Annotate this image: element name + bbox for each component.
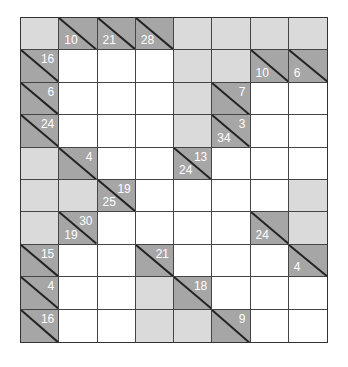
down-clue: 34 <box>217 132 230 144</box>
entry-cell[interactable] <box>289 148 327 180</box>
clue-cell: 3019 <box>59 212 97 244</box>
across-clue: 4 <box>86 151 93 163</box>
entry-cell[interactable] <box>98 115 136 147</box>
clue-cell: 4 <box>59 148 97 180</box>
down-clue: 21 <box>103 34 116 46</box>
down-clue: 10 <box>256 67 269 79</box>
blocked-cell <box>289 212 327 244</box>
clue-cell: 28 <box>136 18 174 50</box>
blocked-cell <box>174 50 212 82</box>
entry-cell[interactable] <box>59 245 97 277</box>
clue-cell: 1925 <box>98 180 136 212</box>
clue-cell: 16 <box>21 50 59 82</box>
clue-cell: 4 <box>289 245 327 277</box>
clue-cell: 18 <box>174 277 212 309</box>
entry-cell[interactable] <box>212 245 250 277</box>
entry-cell[interactable] <box>136 148 174 180</box>
entry-cell[interactable] <box>289 83 327 115</box>
clue-cell: 21 <box>136 245 174 277</box>
across-clue: 13 <box>194 151 207 163</box>
blocked-cell <box>21 180 59 212</box>
entry-cell[interactable] <box>136 83 174 115</box>
clue-cell: 10 <box>59 18 97 50</box>
down-clue: 25 <box>103 196 116 208</box>
clue-cell: 9 <box>212 310 250 342</box>
entry-cell[interactable] <box>98 212 136 244</box>
entry-cell[interactable] <box>98 277 136 309</box>
entry-cell[interactable] <box>212 277 250 309</box>
clue-cell: 1324 <box>174 148 212 180</box>
blocked-cell <box>251 18 289 50</box>
entry-cell[interactable] <box>98 310 136 342</box>
entry-cell[interactable] <box>174 180 212 212</box>
across-clue: 6 <box>48 86 55 98</box>
down-clue: 24 <box>179 164 192 176</box>
across-clue: 16 <box>41 53 54 65</box>
entry-cell[interactable] <box>98 245 136 277</box>
entry-cell[interactable] <box>251 115 289 147</box>
entry-cell[interactable] <box>136 212 174 244</box>
entry-cell[interactable] <box>174 212 212 244</box>
entry-cell[interactable] <box>59 83 97 115</box>
across-clue: 24 <box>41 118 54 130</box>
entry-cell[interactable] <box>59 115 97 147</box>
across-clue: 18 <box>194 280 207 292</box>
entry-cell[interactable] <box>98 50 136 82</box>
blocked-cell <box>21 18 59 50</box>
entry-cell[interactable] <box>289 277 327 309</box>
clue-cell: 7 <box>212 83 250 115</box>
blocked-cell <box>136 277 174 309</box>
entry-cell[interactable] <box>136 50 174 82</box>
clue-cell: 6 <box>21 83 59 115</box>
clue-cell: 24 <box>251 212 289 244</box>
blocked-cell <box>212 50 250 82</box>
entry-cell[interactable] <box>98 148 136 180</box>
blocked-cell <box>289 18 327 50</box>
across-clue: 7 <box>239 86 246 98</box>
entry-cell[interactable] <box>136 180 174 212</box>
blocked-cell <box>212 18 250 50</box>
blocked-cell <box>174 115 212 147</box>
clue-cell: 15 <box>21 245 59 277</box>
entry-cell[interactable] <box>136 115 174 147</box>
blocked-cell <box>59 180 97 212</box>
entry-cell[interactable] <box>251 277 289 309</box>
clue-cell: 4 <box>21 277 59 309</box>
blocked-cell <box>21 148 59 180</box>
across-clue: 30 <box>79 215 92 227</box>
across-clue: 19 <box>117 183 130 195</box>
entry-cell[interactable] <box>251 310 289 342</box>
entry-cell[interactable] <box>98 83 136 115</box>
entry-cell[interactable] <box>289 310 327 342</box>
blocked-cell <box>21 212 59 244</box>
blocked-cell <box>174 83 212 115</box>
entry-cell[interactable] <box>59 277 97 309</box>
down-clue: 28 <box>141 34 154 46</box>
blocked-cell <box>174 18 212 50</box>
entry-cell[interactable] <box>59 50 97 82</box>
across-clue: 4 <box>48 280 55 292</box>
entry-cell[interactable] <box>289 115 327 147</box>
entry-cell[interactable] <box>251 148 289 180</box>
across-clue: 21 <box>156 248 169 260</box>
entry-cell[interactable] <box>251 83 289 115</box>
down-clue: 10 <box>64 34 77 46</box>
blocked-cell <box>136 310 174 342</box>
across-clue: 3 <box>239 118 246 130</box>
entry-cell[interactable] <box>212 180 250 212</box>
entry-cell[interactable] <box>212 212 250 244</box>
clue-cell: 334 <box>212 115 250 147</box>
across-clue: 15 <box>41 248 54 260</box>
clue-cell: 10 <box>251 50 289 82</box>
entry-cell[interactable] <box>212 148 250 180</box>
clue-cell: 21 <box>98 18 136 50</box>
blocked-cell <box>289 180 327 212</box>
across-clue: 9 <box>239 313 246 325</box>
entry-cell[interactable] <box>251 245 289 277</box>
down-clue: 24 <box>256 229 269 241</box>
entry-cell[interactable] <box>251 180 289 212</box>
entry-cell[interactable] <box>59 310 97 342</box>
entry-cell[interactable] <box>174 245 212 277</box>
blocked-cell <box>174 310 212 342</box>
kakuro-grid: 1021281610667243344132419253019241521441… <box>20 17 328 343</box>
